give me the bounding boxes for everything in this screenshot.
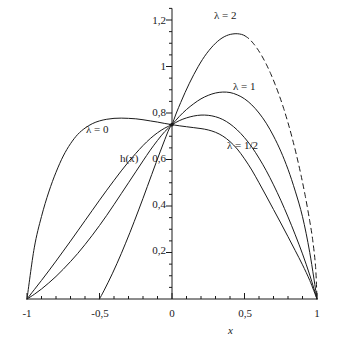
x-tick-label-1: 1: [305, 308, 329, 319]
y-tick-label-0-6: 0,6: [141, 153, 166, 164]
x-tick-label-0: 0: [160, 308, 184, 319]
chart-figure: 1,2 1 0,8 0,6 0,4 0,2 h(x) -1 -0,5 0 0,5…: [0, 0, 339, 344]
series-label-lambda-1: λ = 1: [233, 81, 256, 92]
axes-group: [27, 8, 317, 299]
x-tick-label-0-5: 0,5: [229, 308, 261, 319]
chart-plot-area: [0, 0, 339, 344]
y-tick-label-0-4: 0,4: [141, 199, 166, 210]
curve-lambda-2-dashed: [245, 36, 318, 299]
series-label-lambda-0: λ = 0: [86, 124, 109, 135]
y-tick-label-1-2: 1,2: [141, 15, 166, 26]
y-tick-label-1: 1: [141, 61, 166, 72]
y-tick-label-0-2: 0,2: [141, 245, 166, 256]
y-tick-label-0-8: 0,8: [141, 107, 166, 118]
common-intersection-point: [170, 123, 174, 127]
y-axis-title: h(x): [120, 153, 138, 164]
x-tick-label-neg-1: -1: [15, 308, 39, 319]
x-axis-title: x: [228, 325, 233, 336]
series-label-lambda-one-half: λ = 1/2: [227, 140, 258, 151]
series-label-lambda-2: λ = 2: [214, 10, 237, 21]
x-tick-label-neg-0-5: -0,5: [84, 308, 116, 319]
